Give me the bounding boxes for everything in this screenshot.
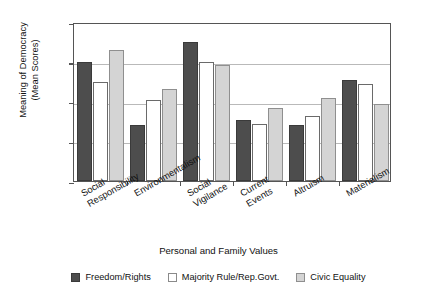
bar [342, 80, 358, 181]
bar [109, 50, 125, 181]
x-axis-title: Personal and Family Values [0, 245, 437, 256]
plot-area [73, 23, 391, 182]
bar [93, 82, 109, 181]
chart-legend: Freedom/RightsMajority Rule/Rep.Govt.Civ… [0, 272, 437, 282]
legend-label: Civic Equality [310, 272, 365, 282]
legend-label: Freedom/Rights [85, 272, 150, 282]
dark-filled-swatch [71, 273, 80, 282]
legend-label: Majority Rule/Rep.Govt. [182, 272, 280, 282]
legend-item: Freedom/Rights [71, 272, 150, 282]
x-axis-tick-mark [339, 181, 340, 186]
x-axis-tick-mark [286, 181, 287, 186]
bar-group [127, 24, 180, 181]
light-gray-swatch [296, 273, 305, 282]
bar [305, 116, 321, 181]
white-outlined-swatch [168, 273, 177, 282]
bar-group [74, 24, 127, 181]
bar [236, 120, 252, 181]
legend-item: Majority Rule/Rep.Govt. [168, 272, 280, 282]
bar [77, 62, 93, 181]
bar-group [286, 24, 339, 181]
x-axis-tick-mark [233, 181, 234, 186]
y-axis-title: Meaning of Democracy (Mean Scores) [17, 0, 41, 150]
bar-chart: Meaning of Democracy (Mean Scores) 2.533… [0, 0, 437, 301]
bar [199, 62, 215, 181]
legend-item: Civic Equality [296, 272, 365, 282]
bar-group [339, 24, 392, 181]
y-axis-tick-mark [69, 183, 74, 184]
bar [215, 65, 231, 181]
bar [358, 84, 374, 181]
bar [146, 100, 162, 181]
bar [321, 98, 337, 181]
bar [268, 108, 284, 181]
bar [289, 125, 305, 181]
bar-group [233, 24, 286, 181]
x-axis-tick-mark [180, 181, 181, 186]
